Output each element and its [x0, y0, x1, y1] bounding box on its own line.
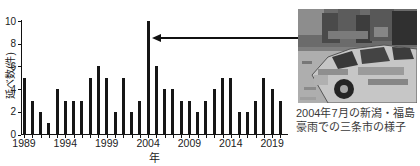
- bar-2010: [196, 112, 199, 135]
- y-tick-8: [18, 44, 21, 45]
- bar-2006: [163, 89, 166, 134]
- bar-2016: [246, 112, 249, 135]
- y-tick-label-10: 10: [0, 16, 16, 27]
- bar-2019: [271, 89, 274, 134]
- bar-2004: [147, 21, 150, 135]
- bar-2008: [180, 101, 183, 135]
- bar-2013: [221, 78, 224, 135]
- bar-1993: [56, 89, 59, 134]
- bar-1998: [97, 66, 100, 134]
- bar-2007: [171, 89, 174, 134]
- bar-1996: [80, 101, 83, 135]
- bar-2002: [130, 112, 133, 135]
- y-tick-10: [18, 21, 21, 22]
- annotation-arrow-head: [152, 34, 161, 42]
- y-tick-4: [18, 89, 21, 90]
- y-tick-label-8: 8: [0, 38, 16, 49]
- photo-caption-line2: 豪雨での三条市の様子: [296, 120, 420, 134]
- x-tick-label-1994: 1994: [48, 137, 82, 149]
- annotation-arrow-line: [160, 37, 300, 39]
- bar-2014: [229, 78, 232, 135]
- y-tick-6: [18, 66, 21, 67]
- bar-2011: [204, 101, 207, 135]
- bar-1994: [64, 101, 67, 135]
- bar-2000: [114, 112, 117, 135]
- bar-2009: [188, 101, 191, 135]
- bar-2005: [155, 66, 158, 134]
- bar-2012: [213, 89, 216, 134]
- x-tick-label-2009: 2009: [172, 137, 206, 149]
- y-tick-label-2: 2: [0, 106, 16, 117]
- y-tick-label-4: 4: [0, 84, 16, 95]
- photo-caption: 2004年7月の新潟・福島 豪雨での三条市の様子: [296, 106, 420, 134]
- x-axis-label: 年: [140, 149, 170, 165]
- x-tick-label-2014: 2014: [214, 137, 248, 149]
- bar-2015: [238, 112, 241, 135]
- bar-1990: [31, 101, 34, 135]
- flood-street-photo: [298, 9, 417, 103]
- bar-1992: [47, 123, 50, 134]
- bar-1995: [72, 101, 75, 135]
- y-tick-label-6: 6: [0, 61, 16, 72]
- bar-2001: [122, 78, 125, 135]
- bar-1997: [89, 78, 92, 135]
- bar-2020: [279, 101, 282, 135]
- bar-chart: 延べ数(件) 0246810 1989199419992004200920142…: [0, 0, 300, 166]
- x-tick-label-2004: 2004: [131, 137, 165, 149]
- bar-2018: [262, 78, 265, 135]
- y-tick-0: [18, 135, 21, 136]
- x-tick-label-2019: 2019: [255, 137, 289, 149]
- photo-caption-line1: 2004年7月の新潟・福島: [296, 106, 420, 120]
- x-tick-label-1989: 1989: [7, 137, 41, 149]
- bar-1989: [23, 78, 26, 135]
- bar-2017: [254, 101, 257, 135]
- figure: 延べ数(件) 0246810 1989199419992004200920142…: [0, 0, 420, 166]
- bar-2003: [138, 101, 141, 135]
- bar-1999: [105, 78, 108, 135]
- flood-photo-illustration: [298, 9, 417, 103]
- bar-1991: [39, 112, 42, 135]
- x-tick-label-1999: 1999: [90, 137, 124, 149]
- y-tick-2: [18, 112, 21, 113]
